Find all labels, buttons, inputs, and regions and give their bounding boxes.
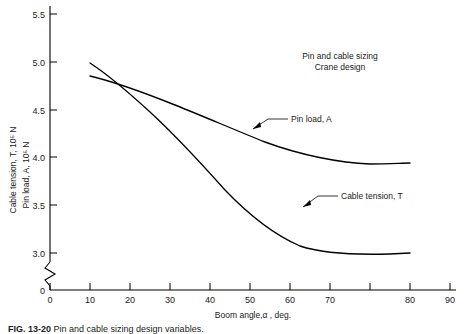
x-tick-label-70: 70 <box>325 295 335 305</box>
y-axis-title-line-1: Cable tension, T, 10⁵ N <box>8 126 18 213</box>
x-tick-label-0: 0 <box>47 295 52 305</box>
y-tick-label-5.5: 5.5 <box>32 10 45 20</box>
cable-tension-annotation: Cable tension, T <box>341 191 403 201</box>
curve-pin-load <box>90 76 410 164</box>
x-tick-label-40: 40 <box>205 295 215 305</box>
x-tick-label-30: 30 <box>165 295 175 305</box>
y-tick-label-5.0: 5.0 <box>32 58 45 68</box>
x-axis-title: Boom angle,α , deg. <box>215 310 291 320</box>
figure-caption: FIG. 13-20 Pin and cable sizing design v… <box>8 324 204 334</box>
x-tick-label-20: 20 <box>125 295 135 305</box>
y-origin-label: 0 <box>40 286 45 296</box>
y-tick-label-4.5: 4.5 <box>32 106 45 116</box>
y-axis-title-line-2: Pin load, A, 10⁵ N <box>21 142 31 209</box>
x-tick-label-50: 50 <box>245 295 255 305</box>
x-tick-label-10: 10 <box>85 295 95 305</box>
pin-load-arrowhead <box>253 122 261 129</box>
chart-note-line-2: Crane design <box>315 62 366 72</box>
y-tick-label-4.0: 4.0 <box>32 153 45 163</box>
x-tick-label-60: 60 <box>285 295 295 305</box>
chart-note-line-1: Pin and cable sizing <box>302 51 378 61</box>
figure-number: FIG. 13-20 <box>8 324 51 334</box>
y-tick-label-3.0: 3.0 <box>32 249 45 259</box>
y-tick-label-3.5: 3.5 <box>32 201 45 211</box>
curve-cable-tension <box>90 63 410 254</box>
figure-caption-text: Pin and cable sizing design variables. <box>54 324 204 334</box>
x-tick-label-80: 80 <box>405 295 415 305</box>
x-tick-label-90: 90 <box>445 295 455 305</box>
cable-tension-arrowhead <box>303 200 311 207</box>
pin-load-annotation: Pin load, A <box>291 114 332 124</box>
